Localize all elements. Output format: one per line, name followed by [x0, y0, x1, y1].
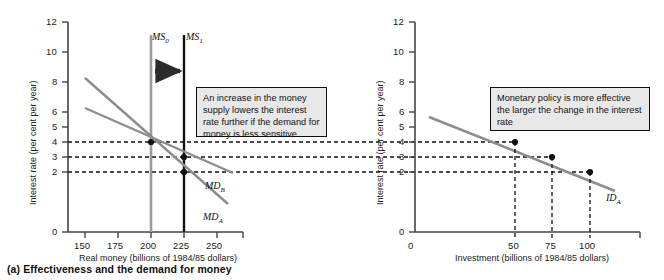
left-y-tick-10: 10: [46, 46, 57, 57]
left-y-tick-6: 6: [52, 106, 57, 117]
right-x-origin: 0: [408, 240, 413, 251]
left-panel-reference-lines: [68, 142, 590, 172]
dot-inv-100-3: [587, 169, 593, 175]
right-y-tick-8: 8: [399, 76, 404, 87]
figure-vector-layer: [0, 0, 664, 280]
dot-eq-225-3: [181, 169, 187, 175]
curve-label-ms0: MS0: [152, 31, 169, 45]
curve-label-ida: IDA: [606, 192, 621, 206]
left-y-tick-2: 2: [52, 166, 57, 177]
right-y-tick-12: 12: [393, 16, 404, 27]
dot-inv-75-4: [549, 154, 555, 160]
dot-eq-225-4: [181, 154, 187, 160]
left-y-tick-3: 3: [52, 151, 57, 162]
left-x-tick-175: 175: [107, 240, 123, 251]
right-x-tick-50: 50: [508, 240, 519, 251]
right-y-tick-0: 0: [399, 226, 404, 237]
left-y-tick-0: 0: [52, 226, 57, 237]
left-y-tick-4: 4: [52, 136, 57, 147]
right-y-tick-3: 3: [399, 151, 404, 162]
right-y-tick-5: 5: [399, 121, 404, 132]
dot-eq-200-5: [148, 139, 154, 145]
left-x-tick-225: 225: [173, 240, 189, 251]
curve-label-mda: MDA: [203, 211, 223, 225]
left-y-tick-8: 8: [52, 76, 57, 87]
figure-money-market-and-investment: Interest rate (per cent per year) 12 10 …: [0, 0, 664, 280]
note-money-supply: An increase in the money supply lowers t…: [196, 87, 327, 137]
note-monetary-policy: Monetary policy is more effective the la…: [490, 87, 650, 131]
left-x-axis-title: Real money (billions of 1984/85 dollars): [79, 253, 237, 263]
curve-label-ms1: MS1: [186, 31, 203, 45]
curve-label-mdb: MDB: [205, 180, 225, 194]
right-y-tick-2: 2: [399, 166, 404, 177]
left-x-tick-150: 150: [74, 240, 90, 251]
right-x-axis-title: Investment (billions of 1984/85 dollars): [455, 253, 609, 263]
left-y-axis-title: Interest rate (per cent per year): [28, 80, 38, 205]
right-y-tick-6: 6: [399, 106, 404, 117]
right-x-tick-75: 75: [545, 240, 556, 251]
dot-inv-50-5: [512, 139, 518, 145]
left-x-tick-200: 200: [140, 240, 156, 251]
right-y-axis-title: Interest rate (per cent per year): [375, 80, 385, 205]
left-x-tick-250: 250: [206, 240, 222, 251]
figure-caption: (a) Effectiveness and the demand for mon…: [7, 263, 232, 275]
right-y-tick-4: 4: [399, 136, 404, 147]
left-y-tick-12: 12: [46, 16, 57, 27]
right-y-tick-10: 10: [393, 46, 404, 57]
left-y-tick-5: 5: [52, 121, 57, 132]
right-x-tick-100: 100: [579, 240, 595, 251]
